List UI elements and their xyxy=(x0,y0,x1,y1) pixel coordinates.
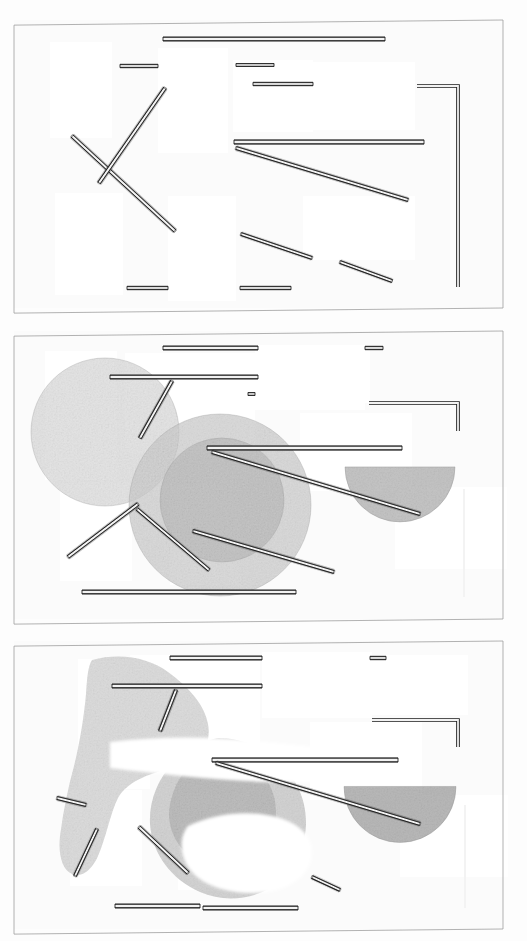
rod-band-long xyxy=(110,375,258,379)
rod-top-short-right xyxy=(365,346,383,349)
rod-top-long xyxy=(163,37,385,41)
rod-top-long xyxy=(163,346,258,350)
panel-2-patch-3 xyxy=(258,348,370,403)
rod-bottom-left xyxy=(115,904,200,908)
panel-1-patch-0 xyxy=(50,42,112,138)
rod-mid-long xyxy=(212,758,398,762)
rod-upper-right xyxy=(253,82,313,85)
panel-3-patch-3 xyxy=(368,655,468,715)
panel-1-patch-4 xyxy=(55,193,123,295)
panel-1-patch-5 xyxy=(168,196,236,301)
rod-bottom-long xyxy=(82,590,296,594)
rod-top-short-right xyxy=(370,656,386,659)
rod-bottom-mid xyxy=(240,286,291,289)
panel-3-patch-2 xyxy=(262,652,372,718)
panel-1-patch-1 xyxy=(158,48,228,153)
figure-canvas xyxy=(0,0,527,941)
panel-1-patch-6 xyxy=(303,196,415,260)
rod-mid-long xyxy=(234,140,424,144)
panel-1 xyxy=(14,20,503,313)
panel-1-patch-3 xyxy=(305,62,415,130)
rod-bottom-left xyxy=(127,286,168,289)
rod-bottom-mid xyxy=(203,906,298,910)
panel-2 xyxy=(14,331,507,624)
panel-1-patch-2 xyxy=(233,60,313,132)
rod-upper-left xyxy=(120,64,158,67)
panel-layer xyxy=(14,20,508,934)
rod-upper-mid xyxy=(236,63,274,66)
rod-band-long xyxy=(112,684,262,688)
rod-tick-mid xyxy=(248,392,255,395)
scanned-figure-sheet xyxy=(0,0,527,941)
rod-mid-long xyxy=(207,446,402,450)
rod-top-long xyxy=(170,656,262,660)
panel-3 xyxy=(14,641,508,934)
